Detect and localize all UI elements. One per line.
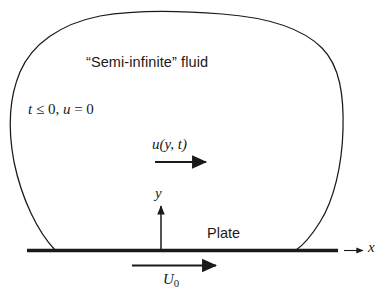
- fluid-region-outline: [10, 11, 343, 250]
- velocity-function-arguments: (y, t): [160, 136, 188, 152]
- fluid-region-label: “Semi-infinite” fluid: [86, 55, 208, 70]
- x-axis-label: x: [368, 240, 375, 255]
- plate-velocity-symbol: U: [163, 271, 174, 287]
- velocity-function-symbol: u: [152, 136, 160, 152]
- plate-label: Plate: [207, 226, 240, 241]
- y-axis-label: y: [155, 186, 162, 201]
- plate-velocity-label: U0: [163, 272, 179, 289]
- plate-velocity-subscript: 0: [174, 277, 179, 289]
- stokes-first-problem-diagram: [0, 0, 386, 302]
- initial-condition-label: t ≤ 0, u = 0: [28, 102, 94, 117]
- initial-condition-equals-zero: = 0: [70, 101, 93, 117]
- velocity-function-label: u(y, t): [152, 137, 187, 152]
- initial-condition-relation: ≤ 0,: [32, 101, 63, 117]
